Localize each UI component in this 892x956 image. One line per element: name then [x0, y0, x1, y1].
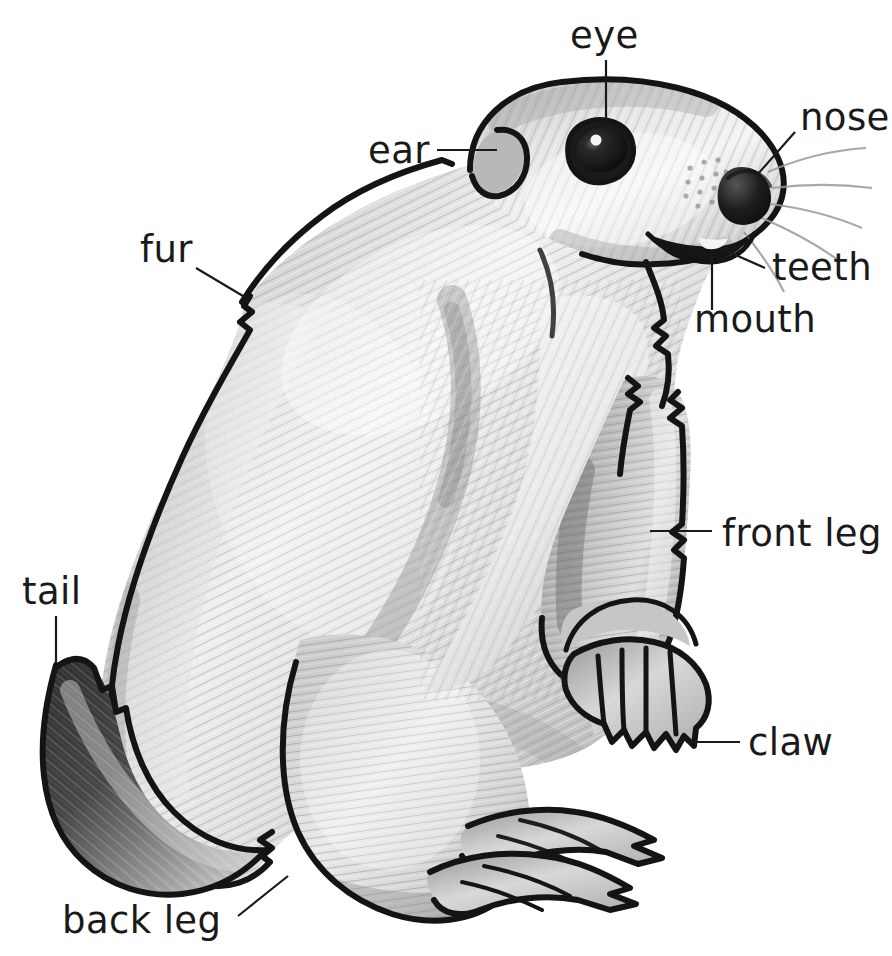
label-fur[interactable]: fur — [140, 228, 243, 296]
label-text-ear: ear — [368, 129, 430, 172]
label-text-front-leg: front leg — [722, 512, 882, 555]
prairie-dog-illustration: eye nose ear teeth mouth — [0, 0, 892, 956]
anatomy-diagram: eye nose ear teeth mouth — [0, 0, 892, 956]
label-text-mouth: mouth — [694, 298, 816, 341]
label-text-back-leg: back leg — [62, 899, 221, 942]
label-tail[interactable]: tail — [22, 570, 81, 663]
label-claw[interactable]: claw — [686, 721, 833, 764]
leader-line-fur — [196, 268, 243, 296]
label-text-fur: fur — [140, 228, 193, 271]
label-text-eye: eye — [570, 14, 639, 57]
label-teeth[interactable]: teeth — [722, 246, 872, 289]
label-text-teeth: teeth — [772, 246, 872, 289]
eye-highlight — [591, 135, 602, 146]
label-text-nose: nose — [800, 96, 890, 139]
label-text-tail: tail — [22, 570, 81, 613]
label-text-claw: claw — [748, 721, 833, 764]
prairie-dog-body — [30, 70, 872, 940]
